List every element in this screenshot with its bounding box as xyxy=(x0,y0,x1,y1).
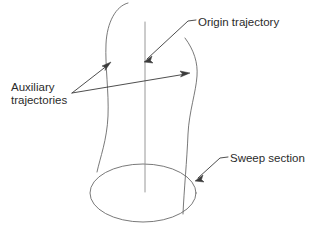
origin-trajectory-leader-line xyxy=(147,20,196,59)
base-ellipse-sweep-section xyxy=(90,164,196,222)
sweep-section-leader-line xyxy=(198,157,228,178)
auxiliary-left-leader-line xyxy=(72,65,108,93)
auxiliary-right-leader-line xyxy=(72,74,186,93)
sweep-section-label: Sweep section xyxy=(230,152,305,164)
sweep-surface-diagram: Origin trajectory Auxiliary trajectories… xyxy=(0,0,316,234)
auxiliary-trajectories-label-line1: Auxiliary xyxy=(11,81,55,93)
auxiliary-trajectories-annotation: Auxiliary trajectories xyxy=(11,62,190,106)
swept-solid-geometry xyxy=(90,3,197,222)
origin-trajectory-label: Origin trajectory xyxy=(198,16,279,28)
left-auxiliary-trajectory-curve xyxy=(97,3,128,172)
diagram-canvas: Origin trajectory Auxiliary trajectories… xyxy=(0,0,316,234)
sweep-section-annotation: Sweep section xyxy=(195,152,305,182)
origin-trajectory-annotation: Origin trajectory xyxy=(144,16,279,63)
auxiliary-right-arrowhead xyxy=(180,71,190,77)
auxiliary-trajectories-label-line2: trajectories xyxy=(11,94,67,106)
